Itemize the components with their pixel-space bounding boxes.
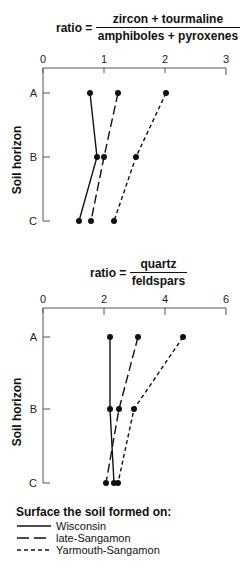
chart2-y-axis [43, 308, 50, 483]
legend-item-yarmouth-sangamon: Yarmouth-Sangamon [16, 544, 171, 556]
chart1-y-axis [43, 68, 50, 221]
long-dash-line-icon [16, 535, 52, 541]
legend-label: Wisconsin [56, 520, 106, 532]
chart1-y-label: Soil horizon [10, 126, 24, 195]
chart2-plot: 0 2 4 6 A B C Soil horizon [0, 280, 247, 495]
legend: Surface the soil formed on: Wisconsin la… [16, 505, 171, 556]
chart1-tick-2: 2 [162, 53, 168, 65]
chart2-tick-6: 6 [223, 293, 229, 305]
chart1-series-yarmouth-sangamon [114, 93, 166, 221]
chart1-tick-1: 1 [101, 53, 107, 65]
chart1-markers [76, 90, 169, 224]
chart2-y-label: Soil horizon [10, 378, 24, 447]
chart2-tick-4: 4 [162, 293, 168, 305]
short-dash-line-icon [16, 547, 52, 553]
chart2-horizon-b: B [30, 403, 37, 415]
chart2-x-axis [43, 308, 226, 315]
solid-line-icon [16, 523, 52, 529]
legend-label: late-Sangamon [56, 532, 131, 544]
chart2-horizon-c: C [29, 477, 37, 489]
chart2-markers [103, 334, 186, 486]
chart1-horizon-a: A [30, 87, 38, 99]
chart2-tick-0: 0 [40, 293, 46, 305]
legend-item-wisconsin: Wisconsin [16, 520, 171, 532]
chart1-x-axis [43, 68, 226, 75]
legend-item-late-sangamon: late-Sangamon [16, 532, 171, 544]
legend-label: Yarmouth-Sangamon [56, 544, 160, 556]
chart1-tick-3: 3 [223, 53, 229, 65]
chart2-horizon-a: A [30, 331, 38, 343]
chart2-title-prefix: ratio = [90, 266, 126, 280]
chart1-plot: 0 1 2 3 A B C Soil horizon [0, 0, 247, 240]
chart1-horizon-c: C [29, 215, 37, 227]
chart2-series-yarmouth-sangamon [118, 337, 183, 483]
chart1-tick-0: 0 [40, 53, 46, 65]
chart1-horizon-b: B [30, 151, 37, 163]
chart2-numerator: quartz [130, 257, 187, 273]
chart2-tick-2: 2 [101, 293, 107, 305]
legend-title: Surface the soil formed on: [16, 505, 171, 519]
